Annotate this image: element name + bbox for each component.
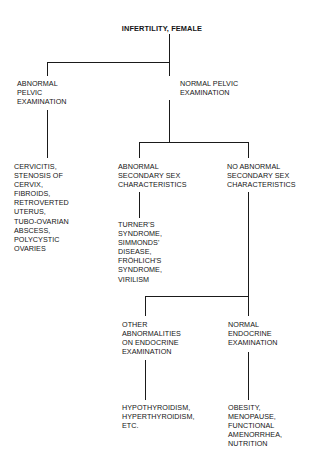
node-abnormal-secondary-sex-findings: TURNER'S SYNDROME, SIMMONDS' DISEASE, FR…	[118, 220, 206, 284]
node-other-endocrine-abnormalities: OTHER ABNORMALITIES ON ENDOCRINE EXAMINA…	[122, 320, 218, 356]
connector-level1-bar	[47, 62, 170, 63]
node-abnormal-secondary-sex-characteristics: ABNORMAL SECONDARY SEX CHARACTERISTICS	[118, 162, 206, 189]
flowchart-canvas: INFERTILITY, FEMALE ABNORMAL PELVIC EXAM…	[0, 0, 324, 456]
connector-level2-bar	[139, 142, 249, 143]
node-normal-endocrine-findings: OBESITY, MENOPAUSE, FUNCTIONAL AMENORRHE…	[228, 403, 320, 448]
node-normal-endocrine-examination: NORMAL ENDOCRINE EXAMINATION	[228, 320, 320, 347]
node-abnormal-pelvic-findings: CERVICITIS, STENOSIS OF CERVIX, FIBROIDS…	[14, 162, 106, 253]
connector-other-endocrine-to-findings	[145, 360, 146, 400]
connector-level1-left-drop	[47, 62, 48, 76]
node-no-abnormal-secondary-sex-characteristics: NO ABNORMAL SECONDARY SEX CHARACTERISTIC…	[227, 162, 319, 189]
connector-normal-pelvic-stem	[169, 100, 170, 142]
connector-level3-left-drop	[145, 296, 146, 316]
connector-level1-right-drop	[169, 62, 170, 76]
node-normal-pelvic-examination: NORMAL PELVIC EXAMINATION	[180, 79, 275, 97]
connector-abnormal-secondary-sex-to-findings	[139, 192, 140, 218]
connector-normal-endocrine-to-findings	[248, 352, 249, 400]
connector-root-stem	[169, 34, 170, 62]
connector-abnormal-pelvic-to-findings	[47, 110, 48, 158]
node-abnormal-pelvic-examination: ABNORMAL PELVIC EXAMINATION	[17, 79, 102, 106]
node-other-endocrine-findings: HYPOTHYROIDISM, HYPERTHYROIDISM, ETC.	[122, 403, 232, 430]
connector-level2-right-drop	[248, 142, 249, 158]
connector-level3-bar	[145, 296, 249, 297]
connector-level3-right-drop	[248, 296, 249, 316]
connector-level2-left-drop	[139, 142, 140, 158]
connector-no-abnormal-secondary-sex-stem	[248, 192, 249, 296]
node-root: INFERTILITY, FEMALE	[96, 24, 228, 33]
